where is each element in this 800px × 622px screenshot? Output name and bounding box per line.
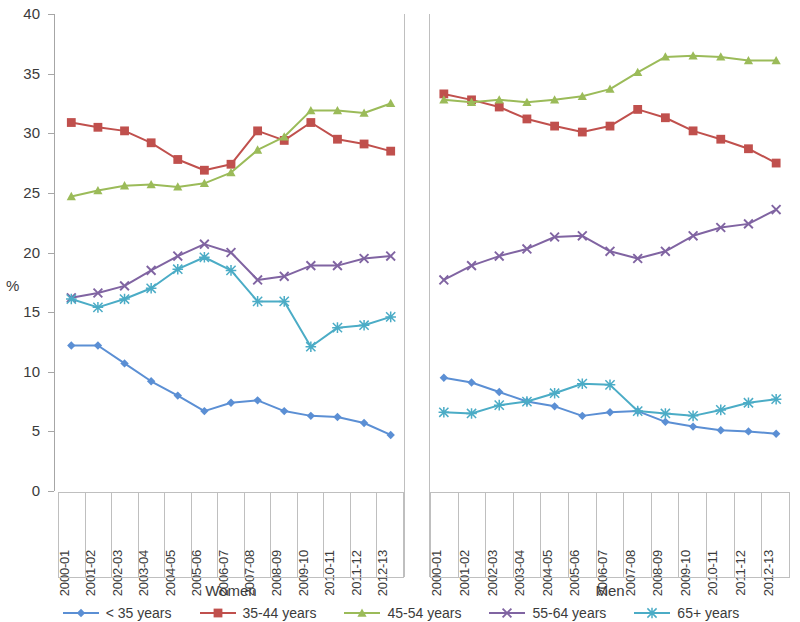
legend-label: 65+ years	[677, 606, 739, 620]
data-point-diamond	[772, 430, 780, 438]
data-point-cross	[306, 261, 315, 270]
data-point-cross	[523, 245, 532, 254]
data-point-star	[306, 341, 317, 352]
data-point-star	[172, 264, 183, 275]
data-point-diamond	[661, 418, 669, 426]
data-point-diamond	[495, 388, 503, 396]
series-line	[439, 51, 781, 106]
x-axis-tick-men: 2006-07	[596, 492, 624, 577]
data-point-square	[386, 147, 395, 156]
data-point-square	[213, 609, 222, 618]
data-point-diamond	[386, 431, 394, 439]
data-point-square	[227, 160, 236, 169]
data-point-diamond	[120, 359, 128, 367]
data-point-cross	[467, 261, 476, 270]
y-axis-tick-label: 25	[8, 185, 40, 200]
legend-key-icon	[632, 606, 672, 620]
legend-item[interactable]: < 35 years	[61, 606, 172, 620]
chart-legend: < 35 years35-44 years45-54 years55-64 ye…	[0, 606, 800, 620]
data-point-square	[578, 128, 587, 137]
data-point-triangle	[67, 192, 76, 200]
y-axis-tick-label: 10	[8, 364, 40, 379]
x-axis-tick-women: 2005-06	[191, 492, 218, 577]
data-point-cross	[147, 266, 156, 275]
data-point-triangle	[280, 132, 289, 140]
legend-item[interactable]: 55-64 years	[487, 606, 606, 620]
data-point-star	[715, 405, 726, 416]
data-point-triangle	[333, 106, 342, 114]
data-point-square	[253, 126, 262, 135]
x-axis-tick-women: 2004-05	[164, 492, 191, 577]
data-point-diamond	[77, 609, 85, 617]
data-point-diamond	[200, 407, 208, 415]
data-point-diamond	[578, 412, 586, 420]
x-axis-tick-women: 2006-07	[217, 492, 244, 577]
data-point-cross	[67, 293, 76, 302]
x-axis-tick-women: 2000-01	[58, 492, 85, 577]
data-point-triangle	[200, 179, 209, 187]
x-axis-tick-women: 2012-13	[376, 492, 404, 577]
data-point-triangle	[467, 98, 476, 106]
data-point-diamond	[147, 377, 155, 385]
data-point-square	[120, 126, 129, 135]
data-point-cross	[120, 281, 129, 290]
y-axis-tick-label: 15	[8, 304, 40, 319]
data-point-diamond	[717, 426, 725, 434]
data-point-triangle	[439, 95, 448, 103]
data-point-triangle	[359, 108, 368, 116]
series-line	[67, 118, 395, 175]
legend-key-icon	[61, 606, 101, 620]
x-axis-tick-women: 2002-03	[111, 492, 138, 577]
data-point-cross	[606, 247, 615, 256]
y-axis-tick-label: 35	[8, 66, 40, 81]
data-point-square	[173, 155, 182, 164]
legend-label: 55-64 years	[532, 606, 606, 620]
x-axis-tick-women: 2001-02	[85, 492, 112, 577]
series-line	[439, 205, 780, 284]
data-point-diamond	[440, 374, 448, 382]
legend-item[interactable]: 45-54 years	[342, 606, 461, 620]
data-point-triangle	[605, 85, 614, 93]
legend-item[interactable]: 65+ years	[632, 606, 739, 620]
data-point-cross	[661, 247, 670, 256]
data-point-cross	[386, 252, 395, 261]
data-point-square	[280, 136, 289, 145]
series-line	[439, 89, 780, 167]
x-axis-tick-women: 2010-11	[323, 492, 350, 577]
y-axis-tick-label: 40	[8, 6, 40, 21]
data-point-cross	[360, 254, 369, 263]
legend-label: 45-54 years	[387, 606, 461, 620]
data-point-cross	[227, 248, 236, 257]
group-label-women: Women	[58, 577, 404, 599]
data-point-star	[119, 294, 130, 305]
legend-key-icon	[198, 606, 238, 620]
data-point-star	[494, 400, 505, 411]
series-line	[439, 378, 782, 421]
x-axis-tick-men: 2010-11	[706, 492, 734, 577]
x-axis-tick-men: 2008-09	[651, 492, 679, 577]
x-axis-categories-men: 2000-012001-022002-032003-042004-052005-…	[430, 492, 790, 577]
data-point-star	[66, 294, 77, 305]
data-point-diamond	[606, 408, 614, 416]
data-point-diamond	[227, 399, 235, 407]
data-point-diamond	[253, 396, 261, 404]
x-axis-tick-men: 2003-04	[513, 492, 541, 577]
data-point-square	[306, 118, 315, 127]
data-point-cross	[253, 276, 262, 285]
data-point-cross	[772, 205, 781, 214]
data-point-triangle	[386, 99, 395, 107]
data-point-triangle	[578, 92, 587, 100]
data-point-star	[660, 408, 671, 419]
data-point-triangle	[226, 168, 235, 176]
legend-label: 35-44 years	[243, 606, 317, 620]
data-point-diamond	[744, 427, 752, 435]
data-point-square	[661, 113, 670, 122]
legend-item[interactable]: 35-44 years	[198, 606, 317, 620]
data-point-star	[279, 296, 290, 307]
data-point-triangle	[306, 106, 315, 114]
data-point-cross	[495, 252, 504, 261]
x-axis-tick-women: 2003-04	[138, 492, 165, 577]
data-point-diamond	[550, 402, 558, 410]
data-point-triangle	[522, 98, 531, 106]
data-point-diamond	[67, 341, 75, 349]
